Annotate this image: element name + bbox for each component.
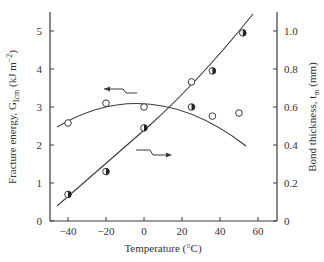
fracture-energy-fit-curve bbox=[57, 104, 246, 146]
x-tick-label: 0 bbox=[141, 225, 147, 237]
fracture-energy-point bbox=[209, 113, 216, 120]
bond-thickness-fit-line bbox=[57, 14, 253, 206]
y-right-tick-label: 0.4 bbox=[284, 139, 298, 151]
y-right-tick-label: 0.2 bbox=[284, 177, 298, 189]
y-left-axis-label: Fracture energy, GIcm (kJ m−2) bbox=[5, 50, 21, 184]
y-right-axis-label: Bond thickness, tm (mm) bbox=[306, 62, 321, 172]
arrow-right-icon bbox=[136, 150, 170, 155]
x-tick-label: −40 bbox=[59, 225, 77, 237]
y-left-tick-label: 0 bbox=[37, 215, 43, 227]
y-left-tick-label: 3 bbox=[37, 101, 43, 113]
y-right-tick-label: 0 bbox=[284, 215, 290, 227]
y-right-tick-label: 1.0 bbox=[284, 25, 298, 37]
bond-thickness-point bbox=[103, 168, 110, 175]
x-tick-label: −20 bbox=[97, 225, 115, 237]
arrow-left-head-icon bbox=[104, 87, 110, 92]
x-tick-label: 20 bbox=[177, 225, 189, 237]
fracture-energy-point bbox=[103, 100, 110, 107]
y-left-tick-label: 1 bbox=[37, 177, 43, 189]
bond-thickness-point bbox=[188, 104, 195, 111]
y-left-tick-label: 5 bbox=[37, 25, 43, 37]
fracture-energy-point bbox=[65, 120, 72, 127]
chart: −40−20020406001234500.20.40.60.81.0Tempe… bbox=[0, 0, 324, 262]
y-right-tick-label: 0.8 bbox=[284, 63, 298, 75]
y-left-tick-label: 4 bbox=[37, 63, 43, 75]
x-tick-label: 40 bbox=[215, 225, 227, 237]
bond-thickness-point bbox=[240, 30, 247, 37]
bond-thickness-point bbox=[65, 191, 72, 198]
fracture-energy-point bbox=[188, 79, 195, 86]
bond-thickness-point bbox=[141, 125, 148, 132]
arrow-right-head-icon bbox=[166, 153, 172, 158]
x-tick-label: 60 bbox=[253, 225, 265, 237]
fracture-energy-point bbox=[236, 110, 243, 117]
y-right-tick-label: 0.6 bbox=[284, 101, 298, 113]
x-axis-label: Temperature (°C) bbox=[124, 242, 202, 255]
y-left-tick-label: 2 bbox=[37, 139, 43, 151]
bond-thickness-point bbox=[209, 68, 216, 75]
fracture-energy-point bbox=[141, 104, 148, 111]
